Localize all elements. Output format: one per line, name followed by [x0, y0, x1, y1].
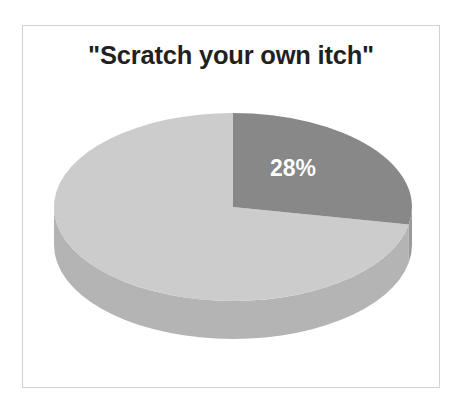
pie-chart-figure: "Scratch your own itch" 28%: [0, 0, 464, 411]
chart-title: "Scratch your own itch": [22, 41, 440, 70]
pie-graphic: [22, 90, 440, 370]
pie-slice-label-28: 28%: [253, 155, 333, 182]
